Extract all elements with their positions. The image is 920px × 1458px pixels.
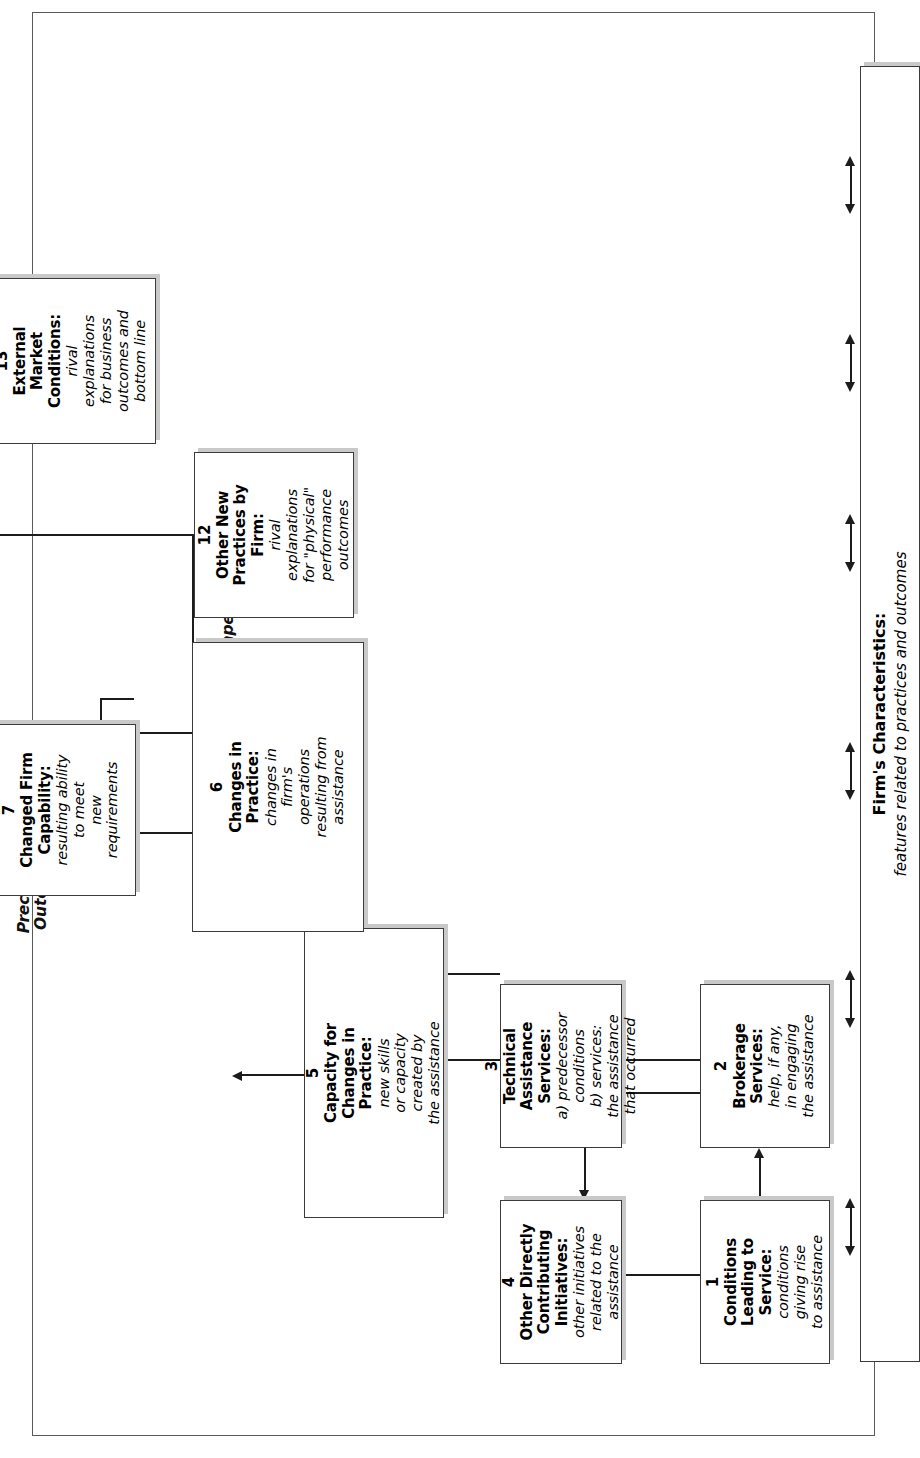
connector-6-to-8-vert bbox=[100, 698, 134, 700]
connector-6-to-7 bbox=[134, 832, 192, 834]
firmbar-link-6 bbox=[850, 160, 852, 206]
box-13-external-market-conditions[interactable]: 13 External Market Conditions: rival exp… bbox=[0, 278, 156, 444]
box-2-subtitle: help, if any, in engaging the assistance bbox=[766, 1014, 816, 1117]
box-2-title: Brokerage Services: bbox=[731, 1023, 766, 1109]
box-12-title: Other New Practices by Firm: bbox=[215, 484, 267, 585]
connector-12-to-9-vert bbox=[0, 534, 194, 536]
box-4-other-directly-contributing-initiatives[interactable]: 4 Other Directly Contributing Initiative… bbox=[500, 1200, 622, 1364]
box-7-title: Changed Firm Capability: bbox=[19, 752, 54, 867]
box-3-subtitle: a) predecessor conditions b) services: t… bbox=[554, 1013, 638, 1120]
firms-characteristics-title: Firm's Characteristics: bbox=[870, 613, 889, 816]
firmbar-link-4-arrow-right bbox=[844, 514, 854, 524]
box-6-title: Changes in Practice: bbox=[227, 741, 262, 832]
box-3-title: Technical Assistance Services: bbox=[502, 1022, 554, 1111]
firmbar-link-4-arrow-left bbox=[844, 562, 854, 572]
connector-1-to-2 bbox=[759, 1152, 761, 1200]
box-13-number: 13 bbox=[0, 351, 11, 372]
box-4-number: 4 bbox=[500, 1277, 517, 1287]
box-5-title: Capacity for Changes in Practice: bbox=[323, 1023, 375, 1123]
box-1-title: Conditions Leading to Service: bbox=[722, 1238, 774, 1326]
box-6-number: 6 bbox=[209, 782, 226, 792]
box-12-number: 12 bbox=[196, 525, 213, 546]
firmbar-link-3-arrow-right bbox=[844, 742, 854, 752]
connector-2-to-3-vert bbox=[622, 1274, 700, 1276]
box-1-conditions-leading-to-service[interactable]: 1 Conditions Leading to Service: conditi… bbox=[700, 1200, 830, 1364]
firmbar-link-1 bbox=[850, 1202, 852, 1248]
firmbar-link-6-arrow-left bbox=[844, 204, 854, 214]
diagram-outer-frame: Immediate Outcomes Intermediate Outcomes… bbox=[32, 12, 875, 1436]
firms-characteristics-subtitle: features related to practices and outcom… bbox=[892, 552, 910, 877]
firmbar-link-5 bbox=[850, 338, 852, 384]
box-2-number: 2 bbox=[713, 1061, 730, 1071]
box-12-other-new-practices-by-firm[interactable]: 12 Other New Practices by Firm: rival ex… bbox=[194, 452, 354, 618]
connector-5-to-6 bbox=[238, 1074, 304, 1076]
firmbar-link-2-arrow-left bbox=[844, 1018, 854, 1028]
arrowhead-1-to-2 bbox=[753, 1148, 763, 1158]
box-5-number: 5 bbox=[305, 1068, 322, 1078]
firmbar-link-1-arrow-right bbox=[844, 1198, 854, 1208]
box-13-subtitle: rival explanations for business outcomes… bbox=[64, 310, 148, 412]
firmbar-link-3-arrow-left bbox=[844, 790, 854, 800]
box-6-subtitle: changes in firm's operations resulting f… bbox=[262, 736, 346, 837]
box-7-subtitle: resulting ability to meet new requiremen… bbox=[53, 754, 120, 865]
box-7-number: 7 bbox=[0, 805, 17, 815]
arrowhead-5-to-6 bbox=[232, 1071, 242, 1081]
firmbar-link-4 bbox=[850, 518, 852, 564]
box-12-subtitle: rival explanations for "physical" perfor… bbox=[267, 487, 351, 583]
firmbar-link-5-arrow-left bbox=[844, 382, 854, 392]
box-6-changes-in-practice[interactable]: 6 Changes in Practice: changes in firm's… bbox=[192, 642, 364, 932]
box-3-number: 3 bbox=[483, 1061, 500, 1071]
box-2-brokerage-services[interactable]: 2 Brokerage Services: help, if any, in e… bbox=[700, 984, 830, 1148]
box-13-title: External Market Conditions: bbox=[12, 314, 64, 408]
arrowhead-1-to-3 bbox=[578, 1190, 588, 1200]
firmbar-link-5-arrow-right bbox=[844, 334, 854, 344]
diagram-stage: Immediate Outcomes Intermediate Outcomes… bbox=[24, 24, 884, 1424]
firmbar-link-2-arrow-right bbox=[844, 970, 854, 980]
box-4-title: Other Directly Contributing Initiatives: bbox=[518, 1224, 570, 1341]
firmbar-link-1-arrow-left bbox=[844, 1246, 854, 1256]
firmbar-link-2 bbox=[850, 974, 852, 1020]
firmbar-link-3 bbox=[850, 746, 852, 792]
connector-12-to-7-vert bbox=[134, 732, 194, 734]
firmbar-link-6-arrow-right bbox=[844, 156, 854, 166]
firms-characteristics-bar[interactable]: Firm's Characteristics: features related… bbox=[860, 66, 920, 1362]
box-1-subtitle: conditions giving rise to assistance bbox=[775, 1235, 825, 1329]
box-3-technical-assistance-services[interactable]: 3 Technical Assistance Services: a) pred… bbox=[500, 984, 622, 1148]
box-1-number: 1 bbox=[704, 1277, 721, 1287]
box-5-capacity-for-changes-in-practice[interactable]: 5 Capacity for Changes in Practice: new … bbox=[304, 928, 444, 1218]
box-7-changed-firm-capability[interactable]: 7 Changed Firm Capability: resulting abi… bbox=[0, 724, 136, 896]
box-4-subtitle: other initiatives related to the assista… bbox=[571, 1226, 621, 1338]
box-5-subtitle: new skills or capacity created by the as… bbox=[375, 1021, 442, 1124]
